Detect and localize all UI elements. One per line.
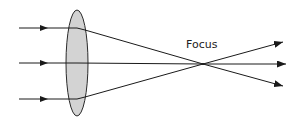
refracted-rays: [77, 28, 203, 99]
focus-point: [202, 63, 204, 65]
refracted-ray-bottom: [77, 64, 203, 99]
refracted-ray-middle: [77, 63, 203, 64]
outgoing-ray-lower: [203, 64, 283, 86]
refracted-ray-top: [77, 28, 203, 64]
focus-label: Focus: [186, 39, 217, 51]
lens-diagram: Focus: [0, 0, 301, 126]
lens-diagram-svg: [0, 0, 301, 126]
